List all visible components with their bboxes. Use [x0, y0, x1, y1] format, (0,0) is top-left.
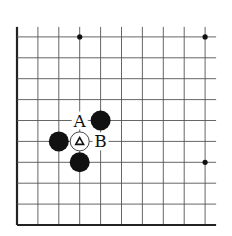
black-stone-icon — [70, 152, 90, 172]
white-stone-icon — [70, 132, 89, 151]
black-stone-icon — [49, 131, 69, 151]
grid-lines — [17, 27, 216, 225]
black-stone-icon — [91, 111, 111, 131]
go-board-diagram: AB — [0, 0, 232, 236]
star-point-icon — [203, 160, 208, 165]
star-point-icon — [203, 34, 208, 39]
point-label-b: B — [94, 131, 107, 151]
star-point-icon — [77, 34, 82, 39]
point-label-a: A — [73, 111, 87, 131]
